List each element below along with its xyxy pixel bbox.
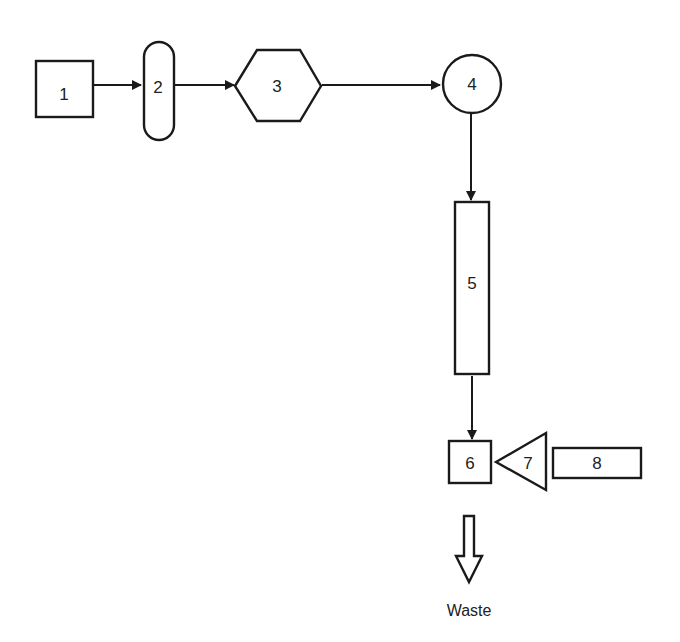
node-8: 8 bbox=[553, 448, 641, 478]
svg-text:6: 6 bbox=[465, 454, 474, 473]
node-2: 2 bbox=[144, 42, 174, 140]
node-4: 4 bbox=[443, 55, 501, 113]
node-6: 6 bbox=[449, 441, 491, 483]
hollow-arrow-down-icon bbox=[456, 516, 482, 582]
svg-text:7: 7 bbox=[523, 454, 532, 473]
svg-text:2: 2 bbox=[153, 78, 162, 97]
svg-text:8: 8 bbox=[592, 454, 601, 473]
svg-text:4: 4 bbox=[467, 75, 476, 94]
node-3: 3 bbox=[235, 50, 321, 121]
svg-text:1: 1 bbox=[59, 85, 68, 104]
node-1: 1 bbox=[36, 61, 93, 117]
node-7: 7 bbox=[496, 433, 546, 490]
node-5: 5 bbox=[455, 202, 489, 374]
svg-text:3: 3 bbox=[272, 77, 281, 96]
waste-label: Waste bbox=[447, 602, 492, 619]
svg-text:5: 5 bbox=[467, 274, 476, 293]
process-diagram: 1 2 3 4 5 6 7 bbox=[0, 0, 680, 642]
